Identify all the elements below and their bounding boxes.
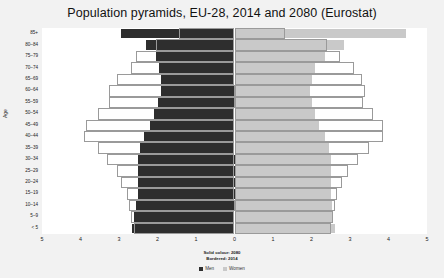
bar-women-2014-6064 [235, 85, 366, 96]
pyramid-row [42, 108, 427, 119]
pyramid-row [42, 85, 427, 96]
bar-men-2014-59 [131, 211, 235, 222]
pyramid-row [42, 74, 427, 85]
y-tick-1519: 15–19 [25, 191, 38, 196]
bar-women-2014-1519 [235, 188, 337, 199]
pyramid-row [42, 200, 427, 211]
bar-men-2014-2024 [121, 177, 235, 188]
legend-label-men: Men [205, 266, 214, 271]
bar-women-2014-2024 [235, 177, 343, 188]
pyramid-row [42, 51, 427, 62]
x-tick-8: 3 [349, 236, 352, 242]
x-tick-9: 4 [387, 236, 390, 242]
bar-men-2014-7579 [136, 51, 234, 62]
y-tick-1014: 10–14 [25, 203, 38, 208]
y-tick-8084: 80–84 [25, 43, 38, 48]
legend-swatch-men [199, 267, 203, 271]
bar-men-2014-4044 [84, 131, 234, 142]
bar-women-2014-8084 [235, 39, 327, 50]
bar-women-2014-2529 [235, 165, 349, 176]
chart-figure: Population pyramids, EU-28, 2014 and 208… [0, 0, 444, 278]
y-tick-5: < 5 [31, 226, 38, 231]
bar-women-2014-4044 [235, 131, 383, 142]
y-tick-2024: 20–24 [25, 180, 38, 185]
pyramid-row [42, 39, 427, 50]
pyramid-row [42, 211, 427, 222]
x-tick-5: 0 [233, 236, 236, 242]
bar-women-2014-1014 [235, 200, 335, 211]
legend-swatch-women [223, 267, 227, 271]
pyramid-row [42, 131, 427, 142]
legend-item-women: Women [223, 266, 245, 271]
y-tick-5054: 50–54 [25, 111, 38, 116]
pyramid-row [42, 165, 427, 176]
plot-area [42, 28, 427, 234]
y-tick-2529: 25–29 [25, 169, 38, 174]
pyramid-row [42, 97, 427, 108]
bar-men-2014-3034 [107, 154, 234, 165]
bar-women-2014-3539 [235, 142, 370, 153]
y-tick-59: 5–9 [30, 214, 38, 219]
legend-item-men: Men [199, 266, 214, 271]
pyramid-row [42, 177, 427, 188]
x-tick-1: 4 [79, 236, 82, 242]
bar-women-2014-7579 [235, 51, 341, 62]
x-tick-7: 2 [310, 236, 313, 242]
bar-women-2014-4549 [235, 120, 383, 131]
x-tick-10: 5 [426, 236, 429, 242]
bar-men-2014-1519 [127, 188, 235, 199]
pyramid-row [42, 223, 427, 234]
bar-men-2014-5 [134, 223, 234, 234]
x-tick-4: 1 [195, 236, 198, 242]
bar-women-2014-85+ [235, 28, 285, 39]
bar-men-2014-2529 [117, 165, 234, 176]
bar-women-2014-6569 [235, 74, 362, 85]
pyramid-row [42, 120, 427, 131]
bar-women-2014-5559 [235, 97, 364, 108]
bar-women-2014-59 [235, 211, 333, 222]
y-tick-6569: 65–69 [25, 77, 38, 82]
pyramid-row [42, 154, 427, 165]
bar-men-2014-5054 [98, 108, 235, 119]
pyramid-row [42, 62, 427, 73]
bar-men-2014-4549 [86, 120, 234, 131]
bar-men-2014-5559 [109, 97, 234, 108]
y-tick-5559: 55–59 [25, 100, 38, 105]
bar-women-2014-5054 [235, 108, 374, 119]
bar-men-2014-8084 [156, 39, 235, 50]
bar-women-2014-3034 [235, 154, 358, 165]
bar-women-2014-5 [235, 223, 331, 234]
x-tick-6: 1 [272, 236, 275, 242]
chart-legend: MenWomen [0, 266, 444, 271]
y-tick-3539: 35–39 [25, 146, 38, 151]
bar-men-2014-7074 [131, 62, 235, 73]
chart-title: Population pyramids, EU-28, 2014 and 208… [0, 6, 444, 20]
x-tick-3: 2 [156, 236, 159, 242]
y-tick-3034: 30–34 [25, 157, 38, 162]
chart-annotation: Solid colour: 2080 Bordered: 2014 [0, 250, 444, 262]
y-axis-tick-labels: 85+80–8475–7970–7465–6960–6455–5950–5445… [0, 28, 40, 234]
legend-label-women: Women [229, 266, 245, 271]
x-tick-2: 3 [118, 236, 121, 242]
y-tick-85+: 85+ [30, 31, 38, 36]
bar-men-2014-6064 [109, 85, 234, 96]
pyramid-row [42, 188, 427, 199]
x-tick-0: 5 [41, 236, 44, 242]
y-tick-4549: 45–49 [25, 123, 38, 128]
annotation-line-2: Bordered: 2014 [0, 256, 444, 262]
x-axis-tick-labels: 54321012345 [42, 234, 427, 248]
bar-men-2014-6569 [117, 74, 234, 85]
y-tick-6064: 60–64 [25, 88, 38, 93]
bar-men-2014-85+ [179, 28, 235, 39]
pyramid-row [42, 142, 427, 153]
bar-men-2014-3539 [98, 142, 235, 153]
y-tick-7579: 75–79 [25, 54, 38, 59]
y-tick-7074: 70–74 [25, 66, 38, 71]
bar-men-2014-1014 [129, 200, 235, 211]
bar-women-2014-7074 [235, 62, 354, 73]
y-tick-4044: 40–44 [25, 134, 38, 139]
pyramid-row [42, 28, 427, 39]
